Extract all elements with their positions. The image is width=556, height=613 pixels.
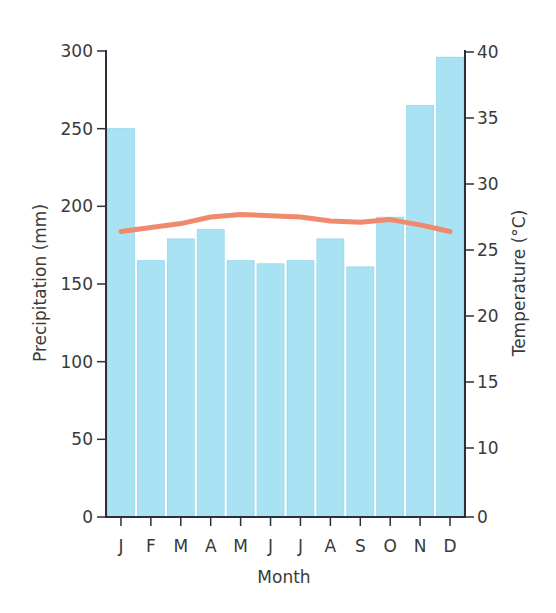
right-tick-label: 10 [477,438,499,458]
right-tick-label: 35 [477,108,499,128]
x-axis-ticks: JFMAMJJASOND [117,517,456,556]
x-tick-label: M [233,536,248,556]
left-tick-label: 200 [61,196,93,216]
bar-9 [377,217,404,517]
bar-10 [407,105,434,517]
x-tick-label: A [205,536,217,556]
left-tick-label: 300 [61,41,93,61]
bar-7 [317,239,344,517]
right-tick-label: 15 [477,372,499,392]
x-tick-label: F [146,536,156,556]
x-axis-title: Month [257,567,310,587]
x-tick-label: D [443,536,456,556]
left-tick-label: 250 [61,119,93,139]
x-tick-label: J [267,536,273,556]
bar-2 [167,239,194,517]
right-tick-label: 30 [477,174,499,194]
x-tick-label: J [117,536,123,556]
bar-0 [108,129,135,517]
bar-5 [257,264,284,517]
x-tick-label: S [355,536,366,556]
left-tick-label: 100 [61,352,93,372]
right-tick-label: 20 [477,306,499,326]
left-tick-label: 0 [82,507,93,527]
right-tick-label: 25 [477,240,499,260]
left-axis-ticks: 050100150200250300 [61,41,106,527]
left-tick-label: 150 [61,274,93,294]
x-tick-label: M [173,536,188,556]
bar-3 [197,230,224,517]
x-tick-label: N [414,536,427,556]
left-tick-label: 50 [71,429,93,449]
x-tick-label: A [325,536,337,556]
x-tick-label: J [297,536,303,556]
y-axis-title: Precipitation (mm) [30,204,50,362]
climate-chart: 050100150200250300 010152025303540 JFMAM… [0,0,556,613]
right-tick-label: 0 [477,507,488,527]
right-axis-ticks: 010152025303540 [465,42,499,527]
bar-8 [347,267,374,517]
bar-1 [137,261,164,517]
y2-axis-title: Temperature (°C) [509,210,529,358]
bar-4 [227,261,254,517]
x-tick-label: O [384,536,397,556]
bar-6 [287,261,314,517]
precipitation-bars [108,57,464,517]
bar-11 [437,57,464,517]
right-tick-label: 40 [477,42,499,62]
